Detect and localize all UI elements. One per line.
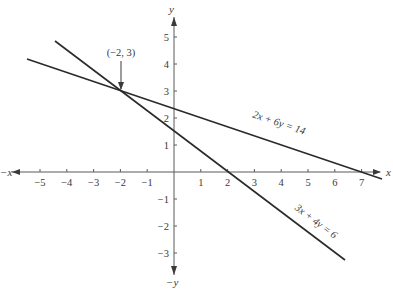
x-axis (12, 169, 381, 175)
x-axis-right-arrow-icon (373, 169, 381, 175)
y-axis-down-arrow-icon (171, 266, 177, 275)
equation-label-line1: 2x + 6y = 14 (251, 109, 307, 137)
intersection-label: (−2, 3) (107, 47, 136, 59)
y-tick-label: 2 (164, 113, 169, 124)
y-tick-label: 1 (164, 140, 169, 151)
x-tick-label: −2 (115, 177, 126, 188)
y-tick-label: −2 (158, 221, 169, 232)
equation-label-line2: 3x + 4y = 6 (292, 201, 340, 241)
y-axis (171, 17, 177, 275)
x-axis-label: x (385, 166, 391, 178)
y-tick-label: −3 (158, 248, 169, 259)
y-tick-label: 5 (164, 32, 169, 43)
y-tick-label: 4 (164, 59, 170, 70)
x-axis-left-arrow-icon (12, 169, 20, 175)
linear-system-graph: −5−4−3−2−11234567 54321−1−2−3 x −x y −y … (0, 0, 393, 291)
y-tick-label: 3 (164, 86, 169, 97)
x-tick-label: −5 (34, 177, 45, 188)
x-tick-label: −1 (142, 177, 153, 188)
y-axis-label: y (168, 3, 174, 15)
y-axis-negative-label: −y (166, 276, 178, 288)
line-3x-4y-6 (55, 41, 345, 260)
x-axis-negative-label: −x (0, 166, 12, 178)
x-tick-label: 7 (359, 177, 364, 188)
x-tick-label: 1 (198, 177, 203, 188)
y-axis-up-arrow-icon (171, 17, 177, 26)
x-tick-label: 2 (225, 177, 230, 188)
y-tick-label: −1 (158, 194, 169, 205)
x-tick-label: 6 (332, 177, 337, 188)
x-tick-label: 3 (252, 177, 257, 188)
x-tick-label: −3 (88, 177, 99, 188)
x-tick-label: −4 (61, 177, 73, 188)
x-tick-label: 5 (305, 177, 310, 188)
x-tick-label: 4 (279, 177, 285, 188)
line-2x-6y-14 (27, 59, 382, 179)
